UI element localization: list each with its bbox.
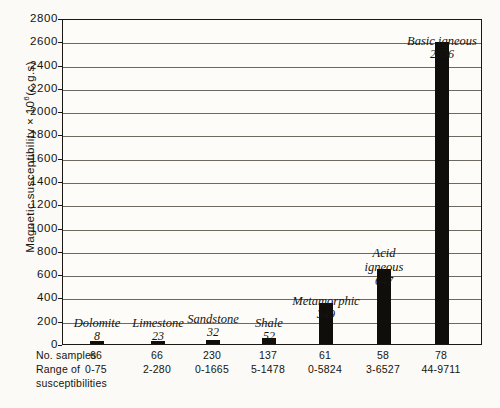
cell-range-0: 0-75: [85, 363, 107, 375]
cell-no-samples-0: 66: [90, 349, 102, 361]
y-tick-label-400: 400: [2, 292, 58, 304]
cell-no-samples-1: 66: [151, 349, 163, 361]
gridline-2400: [63, 67, 481, 68]
annotation-metamorphic: Metamorphic349: [292, 294, 359, 322]
annotation-label: Shale: [255, 316, 283, 330]
annotation-label: Limestone: [132, 316, 183, 330]
annotation-label: Basic igneous: [407, 34, 477, 48]
annotation-value: 2596: [407, 48, 477, 62]
annotation-label: Metamorphic: [292, 294, 359, 308]
cell-no-samples-3: 137: [259, 349, 277, 361]
row-label-range: Range of: [36, 363, 80, 375]
annotation-value: 32: [187, 326, 238, 340]
gridline-2000: [63, 113, 481, 114]
cell-range-6: 44-9711: [421, 363, 460, 375]
y-axis-title: Magnetic susceptibility × 106(c.g.s): [22, 42, 36, 272]
cell-no-samples-2: 230: [203, 349, 221, 361]
cell-range-2: 0-1665: [195, 363, 229, 375]
bar-sandstone: [206, 340, 220, 344]
gridline-1000: [63, 230, 481, 231]
annotation-label: Sandstone: [187, 312, 238, 326]
cell-range-1: 2-280: [143, 363, 171, 375]
annotation-value: 23: [132, 330, 183, 344]
annotation-label-line1: Acid: [365, 246, 404, 260]
annotation-value: 647: [365, 275, 404, 289]
data-table: No. samples Range of susceptibilities 66…: [0, 347, 500, 408]
cell-no-samples-5: 58: [377, 349, 389, 361]
row-label-no-samples: No. samples: [36, 349, 97, 361]
gridline-400: [63, 299, 481, 300]
annotation-basic-igneous: Basic igneous2596: [407, 34, 477, 62]
annotation-label-line2: igneous: [365, 260, 404, 274]
annotation-acid-igneous: Acidigneous647: [365, 246, 404, 289]
annotation-value: 349: [292, 308, 359, 322]
row-label-susceptibilities: susceptibilities: [36, 377, 107, 389]
y-tick-label-2800: 2800: [2, 13, 58, 25]
annotation-dolomite: Dolomite8: [74, 316, 121, 344]
y-tick-mark-0: [58, 345, 62, 346]
plot-area: Dolomite8Limestone23Sandstone32Shale52Me…: [62, 19, 482, 345]
annotation-value: 52: [255, 330, 283, 344]
annotation-label: Dolomite: [74, 316, 121, 330]
annotation-sandstone: Sandstone32: [187, 312, 238, 340]
gridline-1600: [63, 160, 481, 161]
gridline-2200: [63, 90, 481, 91]
gridline-800: [63, 253, 481, 254]
y-tick-label-200: 200: [2, 316, 58, 328]
cell-no-samples-6: 78: [435, 349, 447, 361]
cell-range-4: 0-5824: [308, 363, 342, 375]
annotation-shale: Shale52: [255, 316, 283, 344]
cell-no-samples-4: 61: [319, 349, 331, 361]
chart-page: 0200400600800100012001400160018002000220…: [0, 0, 500, 408]
gridline-600: [63, 276, 481, 277]
bar-basic-igneous: [435, 42, 449, 344]
cell-range-3: 5-1478: [251, 363, 285, 375]
cell-range-5: 3-6527: [366, 363, 400, 375]
gridline-1800: [63, 136, 481, 137]
annotation-limestone: Limestone23: [132, 316, 183, 344]
annotation-value: 8: [74, 330, 121, 344]
y-axis-title-text: Magnetic susceptibility × 106(c.g.s): [24, 61, 36, 253]
gridline-1400: [63, 183, 481, 184]
gridline-1200: [63, 206, 481, 207]
